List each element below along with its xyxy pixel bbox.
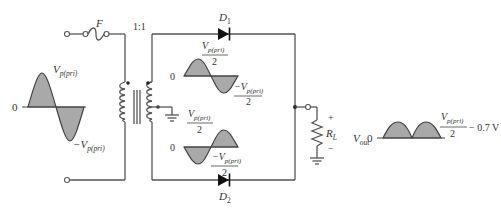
diode-d1-label: D1 xyxy=(218,11,231,26)
output-peak-label: Vp(pri) xyxy=(441,111,464,125)
svg-text:2: 2 xyxy=(197,124,202,135)
transformer-core-icon xyxy=(134,90,140,124)
load-resistor: + RL − xyxy=(293,105,337,165)
diode-d2: D2 xyxy=(218,174,231,206)
transformer: 1:1 xyxy=(120,21,179,180)
diode-d1: D1 xyxy=(218,11,231,41)
fuse-label: F xyxy=(95,17,103,29)
input-waveform xyxy=(22,73,86,141)
svg-text:2: 2 xyxy=(246,96,251,107)
secondary-polarity-dot xyxy=(146,81,150,85)
input-terminal-bottom xyxy=(65,178,70,183)
secondary-coil-icon xyxy=(146,81,160,122)
svg-text:−Vp(pri): −Vp(pri) xyxy=(234,81,264,95)
rectifier-circuit-diagram: F 0 Vp(pri) −Vp(pri) 1:1 xyxy=(0,0,501,214)
svg-text:2: 2 xyxy=(222,167,227,178)
top-wave-zero-label: 0 xyxy=(170,71,175,82)
bottom-wave-zero-label: 0 xyxy=(170,142,175,153)
svg-text:−Vp(pri): −Vp(pri) xyxy=(212,151,242,165)
load-plus: + xyxy=(328,112,334,123)
input-neg-peak-label: −Vp(pri) xyxy=(73,138,105,153)
output-peak-suffix: − 0.7 V xyxy=(469,122,500,133)
turns-ratio-label: 1:1 xyxy=(133,21,146,32)
output-zero-label: 0 xyxy=(367,132,373,144)
svg-text:Vp(pri): Vp(pri) xyxy=(202,40,225,54)
load-ground-icon xyxy=(310,158,324,164)
input-source: F 0 Vp(pri) −Vp(pri) xyxy=(12,17,125,183)
svg-text:2: 2 xyxy=(212,56,217,67)
secondary-bottom-waveform: 0 Vp(pri) 2 −Vp(pri) 2 xyxy=(170,108,242,178)
resistor-icon xyxy=(312,120,322,146)
ground-icon xyxy=(165,115,179,121)
input-peak-label: Vp(pri) xyxy=(53,63,78,78)
output-terminal xyxy=(306,105,311,110)
input-terminal-top xyxy=(65,32,70,37)
svg-text:2: 2 xyxy=(450,128,455,139)
secondary-top-waveform: 0 Vp(pri) 2 −Vp(pri) 2 xyxy=(170,40,264,107)
primary-coil-icon xyxy=(120,81,130,122)
svg-text:Vp(pri): Vp(pri) xyxy=(188,108,211,122)
diode-d1-icon xyxy=(218,28,229,40)
input-zero-label: 0 xyxy=(12,101,18,113)
fuse-icon xyxy=(83,28,109,40)
load-minus: − xyxy=(328,143,334,154)
diode-d2-label: D2 xyxy=(218,190,231,205)
output-waveform: Vout 0 Vp(pri) 2 − 0.7 V xyxy=(353,111,500,147)
primary-polarity-dot xyxy=(126,81,130,85)
load-label: RL xyxy=(325,127,337,142)
